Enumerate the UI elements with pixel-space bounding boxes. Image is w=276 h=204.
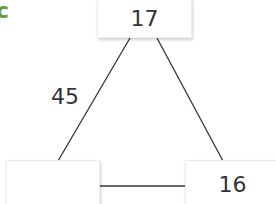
top-node-value: 17 xyxy=(131,6,159,31)
bottom-right-node-box: 16 xyxy=(185,160,276,204)
bottom-right-node-value: 16 xyxy=(219,172,247,197)
top-node-box: 17 xyxy=(97,0,192,38)
right-edge-line xyxy=(157,38,223,161)
left-edge-label: 45 xyxy=(51,84,79,109)
bottom-left-node-box[interactable] xyxy=(6,160,100,204)
